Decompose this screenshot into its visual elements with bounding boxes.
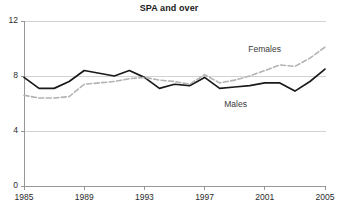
y-tick-label: 4 xyxy=(0,125,18,135)
y-tick-label: 12 xyxy=(0,15,18,25)
data-series xyxy=(24,47,325,98)
y-tick-label: 0 xyxy=(0,180,18,190)
x-tick-label: 1997 xyxy=(185,192,225,202)
chart-plot-area xyxy=(0,0,338,213)
series-line-females xyxy=(24,47,325,98)
x-tick-label: 2005 xyxy=(305,192,338,202)
y-tick-label: 8 xyxy=(0,70,18,80)
series-label-males: Males xyxy=(224,99,247,109)
series-line-males xyxy=(24,69,325,91)
x-tick-label: 1985 xyxy=(4,192,44,202)
x-tick-label: 1989 xyxy=(64,192,104,202)
x-tick-label: 1993 xyxy=(124,192,164,202)
chart-container: SPA and over 04812 198519891993199720012… xyxy=(0,0,338,213)
series-label-females: Females xyxy=(248,44,281,54)
x-tick-label: 2001 xyxy=(245,192,285,202)
